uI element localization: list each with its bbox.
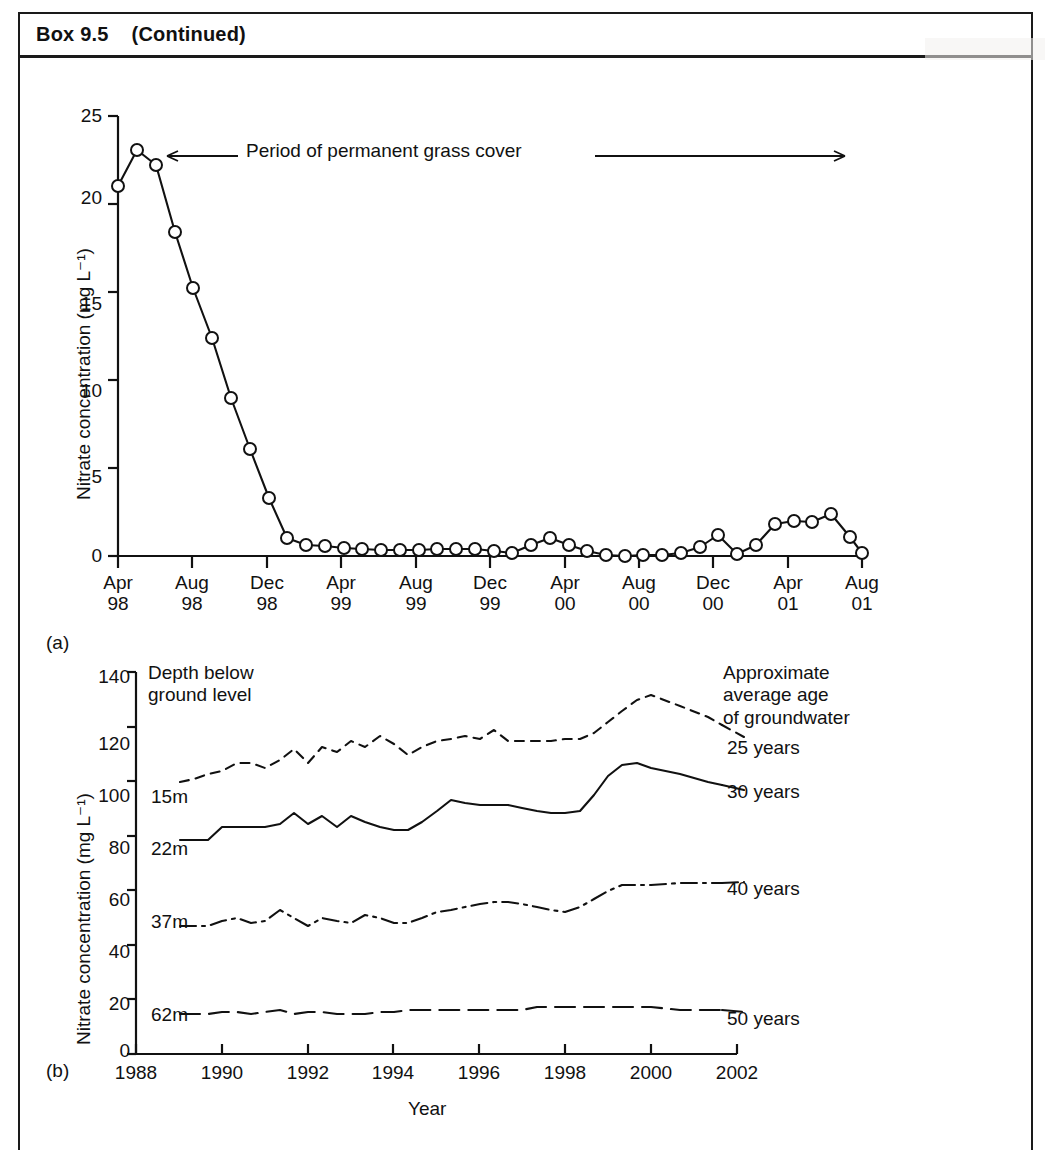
panel-b-xtick-2000: 2000 xyxy=(611,1062,691,1083)
panel-b-xtick-1988: 1988 xyxy=(96,1062,176,1083)
panel-b-letter: (b) xyxy=(46,1060,69,1082)
panel-b-xtick-1990: 1990 xyxy=(182,1062,262,1083)
panel-b-xtick-2002: 2002 xyxy=(697,1062,777,1083)
panel-b-xtick-1992: 1992 xyxy=(268,1062,348,1083)
panel-b-xtick-1996: 1996 xyxy=(439,1062,519,1083)
panel-b-xlabel: Year xyxy=(408,1098,446,1120)
panel-b-xtick-1994: 1994 xyxy=(353,1062,433,1083)
figure-page: Box 9.5 (Continued) Nitrate concentratio… xyxy=(0,0,1051,1152)
panel-b-xtick-1998: 1998 xyxy=(525,1062,605,1083)
panel-b-plot xyxy=(0,0,1051,1152)
chart-panel-b: Nitrate concentration (mg L⁻¹) 0 20 40 6… xyxy=(0,0,1051,1152)
